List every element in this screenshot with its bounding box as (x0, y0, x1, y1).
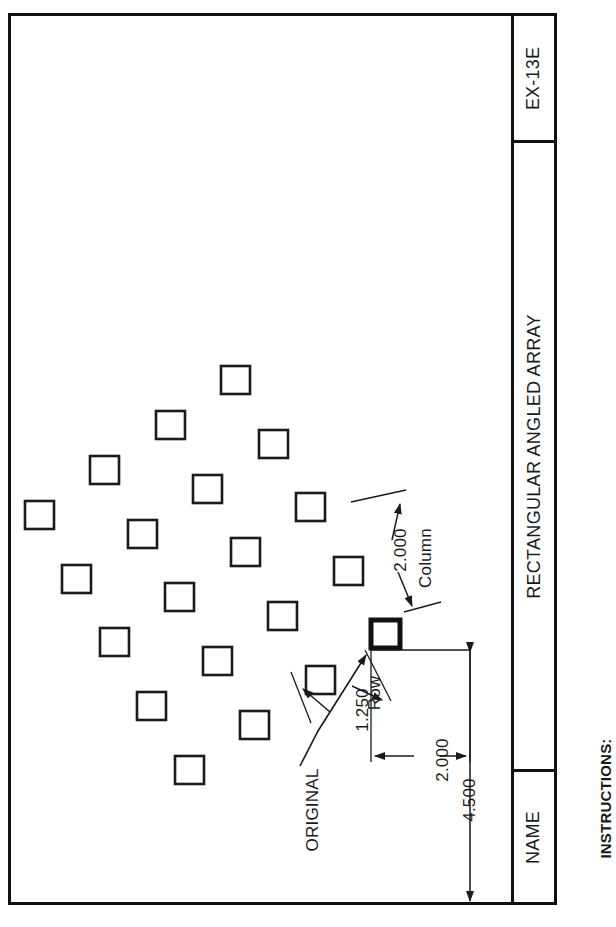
array-square (268, 602, 297, 630)
name-label-text: NAME (524, 810, 545, 863)
array-square (62, 565, 91, 593)
array-square (334, 557, 363, 585)
array-square (90, 456, 119, 484)
array-square (240, 711, 269, 739)
array-square (231, 538, 260, 566)
overall-dimension-value: 4.500 (448, 790, 492, 810)
array-square (203, 647, 232, 675)
array-square (306, 666, 335, 694)
array-square (175, 756, 204, 784)
drawing-number-text: EX-13E (524, 46, 545, 109)
array-square (156, 411, 185, 439)
array-square (137, 692, 166, 720)
row-dimension-word: Row (358, 683, 393, 703)
array-square (221, 366, 250, 394)
array-square (165, 583, 194, 611)
square-array (25, 366, 400, 784)
array-square (193, 475, 222, 503)
array-square (259, 430, 288, 458)
drawing-title-text: RECTANGULAR ANGLED ARRAY (524, 314, 545, 599)
original-square (371, 620, 400, 648)
offset-dimension (371, 650, 470, 762)
column-dimension-word: Column (396, 548, 456, 568)
instructions-label: INSTRUCTIONS: (545, 790, 616, 807)
array-square (128, 520, 157, 548)
offset-dimension-value: 2.000 (421, 750, 465, 770)
array-square (100, 628, 129, 656)
array-square (25, 501, 54, 529)
title-block-drawing-number-cell: EX-13E (514, 16, 554, 143)
array-square (296, 493, 325, 521)
title-block-title-cell: RECTANGULAR ANGLED ARRAY (514, 143, 554, 772)
original-label: ORIGINAL (272, 800, 355, 820)
